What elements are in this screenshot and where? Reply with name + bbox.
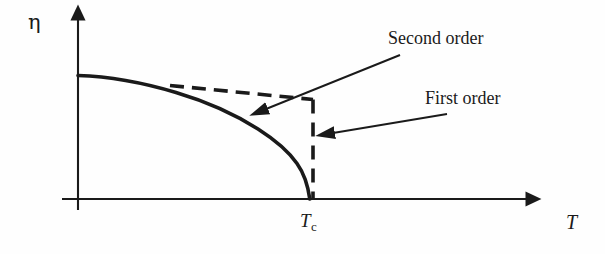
tc-base: T	[300, 210, 311, 231]
x-axis-label: T	[566, 212, 577, 232]
second-order-curve	[78, 76, 310, 200]
phase-transition-order-parameter-figure: η T Tc Second order First order	[0, 0, 605, 254]
first-order-leader-arrow	[333, 114, 447, 133]
annotation-label-first-order: First order	[425, 89, 501, 107]
y-axis-label: η	[28, 12, 41, 33]
second-order-leader-arrow	[266, 55, 400, 109]
x-axis-tick-label-critical-temperature: Tc	[300, 211, 317, 233]
tc-subscript: c	[311, 219, 317, 234]
annotation-label-second-order: Second order	[388, 29, 483, 47]
